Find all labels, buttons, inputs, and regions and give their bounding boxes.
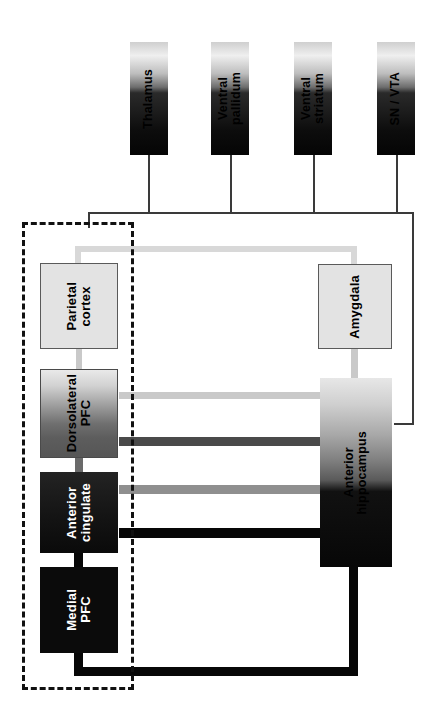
edge-sn-vta-right-run <box>412 212 414 424</box>
edge-ventral-pallidum-stem <box>230 155 232 213</box>
edge-parietal-dlpfc <box>76 348 82 370</box>
edge-dlpfc-hippocampus-dark <box>119 437 324 446</box>
node-sn-vta-label: SN / VTA <box>389 72 402 125</box>
edge-sn-vta-into-hippocampus <box>394 423 414 425</box>
edge-thalamus-stem <box>148 155 150 213</box>
edge-subcortical-bus <box>88 212 413 214</box>
edge-parietal-amygdala-right-leg <box>351 246 357 266</box>
node-thalamus-label: Thalamus <box>142 69 155 129</box>
node-ventral-striatum[interactable]: Ventral striatum <box>294 42 332 155</box>
edge-sn-vta-stem <box>396 155 398 213</box>
node-amygdala[interactable]: Amygdala <box>318 264 392 349</box>
edge-dlpfc-hippocampus-light <box>119 392 324 399</box>
node-sn-vta[interactable]: SN / VTA <box>377 42 415 155</box>
node-parietal-cortex-label: Parietal cortex <box>65 282 93 331</box>
node-amygdala-label: Amygdala <box>348 275 362 339</box>
edge-acc-mpfc <box>74 552 83 568</box>
edge-dlpfc-acc <box>75 457 83 473</box>
node-thalamus[interactable]: Thalamus <box>130 42 168 155</box>
node-ventral-pallidum[interactable]: Ventral pallidum <box>211 42 249 155</box>
edge-amygdala-hippocampus <box>351 347 358 379</box>
node-anterior-cingulate-label: Anterior cingulate <box>65 483 93 542</box>
edge-ventral-striatum-stem <box>313 155 315 213</box>
node-anterior-cingulate[interactable]: Anterior cingulate <box>40 472 118 553</box>
node-dorsolateral-pfc-label: Dorsolateral PFC <box>65 374 93 452</box>
node-medial-pfc[interactable]: Medial PFC <box>40 567 118 653</box>
node-medial-pfc-label: Medial PFC <box>65 589 93 631</box>
node-parietal-cortex[interactable]: Parietal cortex <box>40 263 118 349</box>
edge-bus-left-drop <box>88 212 90 228</box>
node-dorsolateral-pfc[interactable]: Dorsolateral PFC <box>40 369 118 458</box>
edge-mpfc-bottom-run <box>74 667 358 676</box>
node-anterior-hippocampus-label: Anterior hippocampus <box>343 431 370 514</box>
diagram-canvas: Thalamus Ventral pallidum Ventral striat… <box>0 0 443 722</box>
edge-acc-hippocampus-mid <box>119 485 324 494</box>
edge-mpfc-up-to-hippocampus <box>349 566 358 671</box>
node-ventral-pallidum-label: Ventral pallidum <box>217 72 244 125</box>
edge-acc-hippocampus-black <box>119 528 324 538</box>
node-ventral-striatum-label: Ventral striatum <box>300 73 327 124</box>
node-anterior-hippocampus[interactable]: Anterior hippocampus <box>320 378 392 567</box>
edge-parietal-amygdala-span <box>75 246 357 252</box>
